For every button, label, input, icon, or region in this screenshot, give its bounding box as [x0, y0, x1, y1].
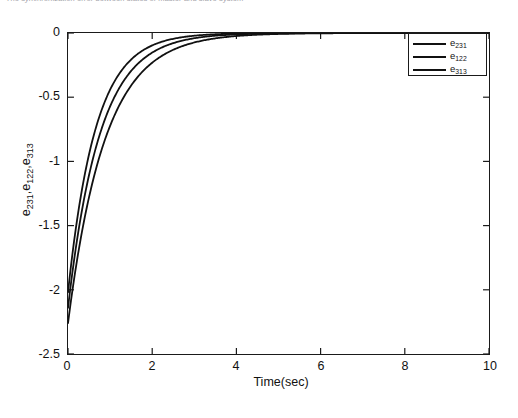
legend: e231 e122 e313 [408, 33, 487, 76]
x-tick-label: 8 [390, 359, 420, 373]
axis-ticks [68, 33, 489, 354]
legend-item: e231 [409, 37, 486, 50]
series-line-e313 [68, 33, 489, 323]
y-tick-label: -2 [16, 283, 60, 297]
legend-item-label: e313 [450, 64, 467, 76]
legend-item-label: e122 [450, 51, 467, 63]
x-tick-label: 10 [475, 359, 505, 373]
plot-area [67, 32, 490, 355]
legend-item-label: e231 [450, 38, 467, 50]
legend-line-swatch [413, 69, 446, 71]
x-tick-label: 6 [306, 359, 336, 373]
x-axis-title: Time(sec) [0, 375, 518, 389]
legend-line-swatch [413, 56, 446, 58]
y-axis-title-text: e231,e122,e313 [19, 143, 33, 216]
x-tick-label: 2 [137, 359, 167, 373]
y-axis-title: e231,e122,e313 [19, 95, 35, 265]
x-tick-label: 0 [52, 359, 82, 373]
legend-item: e122 [409, 50, 486, 63]
x-axis-title-text: Time(sec) [253, 375, 308, 389]
plot-canvas [68, 33, 489, 354]
figure-synchronization-error: 0 -0.5 -1 -1.5 -2 -2.5 0 2 4 6 8 10 Time… [0, 0, 518, 418]
y-tick-label: 0 [16, 25, 60, 39]
legend-line-swatch [413, 43, 446, 45]
legend-item: e313 [409, 63, 486, 76]
data-curves [68, 33, 489, 323]
x-tick-label: 4 [221, 359, 251, 373]
